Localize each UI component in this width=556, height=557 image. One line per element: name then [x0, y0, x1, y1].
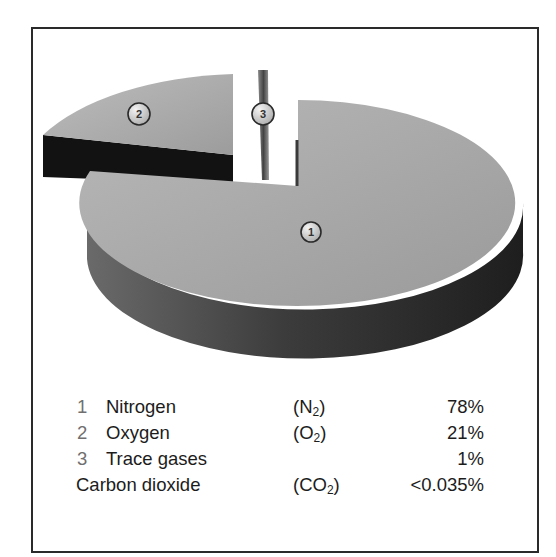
legend-label: Oxygen: [106, 421, 170, 445]
legend-row-trace-gases: 3 Trace gases 1%: [0, 447, 556, 471]
legend-label: Nitrogen: [106, 395, 176, 419]
legend-value: 21%: [340, 421, 484, 445]
legend-row-carbon-dioxide: Carbon dioxide (CO2) <0.035%: [0, 473, 556, 497]
legend-number: 2: [77, 421, 87, 445]
legend-row-nitrogen: 1 Nitrogen (N2) 78%: [0, 395, 556, 419]
legend-formula: (O2): [293, 421, 326, 450]
legend-number: 3: [77, 447, 87, 471]
legend-label: Trace gases: [106, 447, 207, 471]
legend-formula: (N2): [293, 395, 325, 424]
legend-value: 1%: [340, 447, 484, 471]
legend-formula: (CO2): [293, 473, 340, 502]
legend-value: <0.035%: [340, 473, 484, 497]
legend-number: 1: [77, 395, 87, 419]
legend: 1 Nitrogen (N2) 78% 2 Oxygen (O2) 21% 3 …: [0, 0, 556, 557]
legend-value: 78%: [340, 395, 484, 419]
legend-label: Carbon dioxide: [76, 473, 200, 497]
legend-row-oxygen: 2 Oxygen (O2) 21%: [0, 421, 556, 445]
